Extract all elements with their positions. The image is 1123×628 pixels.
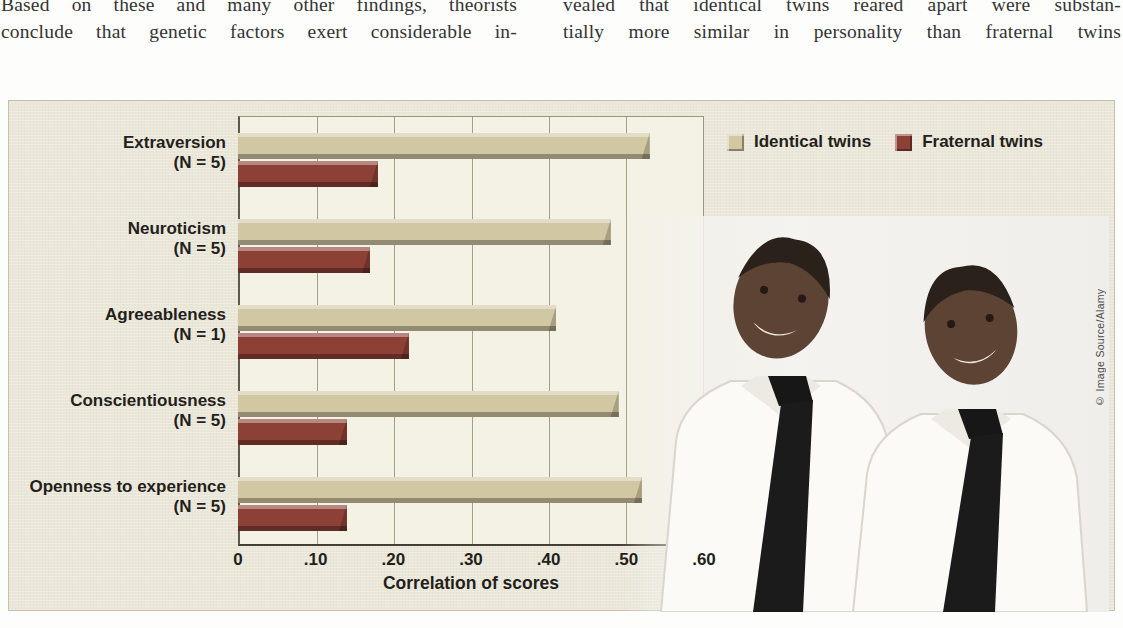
- figure-box: Extraversion (N = 5) Neuroticism (N = 5): [8, 100, 1115, 611]
- category-sample-size: (N = 5): [174, 153, 226, 173]
- chart-row: Extraversion (N = 5): [9, 116, 704, 202]
- identical-twins-bar: [238, 133, 650, 159]
- category-name: Neuroticism: [128, 219, 226, 239]
- x-tick-label: 0: [233, 550, 242, 570]
- category-sample-size: (N = 5): [174, 411, 226, 431]
- category-name: Extraversion: [123, 133, 226, 153]
- category-sample-size: (N = 5): [174, 239, 226, 259]
- legend-item-identical: Identical twins: [727, 132, 871, 152]
- identical-twins-swatch: [727, 134, 744, 151]
- x-tick-label: .20: [382, 550, 406, 570]
- bar-rows: Extraversion (N = 5) Neuroticism (N = 5): [9, 116, 704, 546]
- category-label: Conscientiousness (N = 5): [9, 374, 226, 448]
- category-name: Conscientiousness: [70, 391, 226, 411]
- legend-label: Fraternal twins: [922, 132, 1043, 152]
- category-sample-size: (N = 5): [174, 497, 226, 517]
- category-name: Agreeableness: [105, 305, 226, 325]
- x-tick-label: .30: [459, 550, 483, 570]
- fraternal-twins-bar: [238, 161, 378, 187]
- fraternal-twins-bar: [238, 247, 370, 273]
- body-text-line: vealed that identical twins reared apart…: [563, 0, 1121, 18]
- chart-row: Openness to experience (N = 5): [9, 460, 704, 546]
- legend-item-fraternal: Fraternal twins: [895, 132, 1043, 152]
- legend-label: Identical twins: [754, 132, 871, 152]
- identical-twins-bar: [238, 391, 619, 417]
- bar-pair: [238, 391, 704, 445]
- category-label: Agreeableness (N = 1): [9, 288, 226, 362]
- fraternal-twins-bar: [238, 505, 347, 531]
- category-label: Extraversion (N = 5): [9, 116, 226, 190]
- fraternal-twins-swatch: [895, 134, 912, 151]
- identical-twins-bar: [238, 477, 642, 503]
- identical-twins-bar: [238, 219, 611, 245]
- bar-pair: [238, 219, 704, 273]
- bar-pair: [238, 477, 704, 531]
- identical-twins-bar: [238, 305, 556, 331]
- chart-row: Conscientiousness (N = 5): [9, 374, 704, 460]
- x-axis-ticks: 0.10.20.30.40.50.60: [238, 550, 704, 570]
- body-text-left-column: Based on these and many other findings, …: [1, 0, 517, 45]
- chart-row: Neuroticism (N = 5): [9, 202, 704, 288]
- category-name: Openness to experience: [29, 477, 226, 497]
- chart-row: Agreeableness (N = 1): [9, 288, 704, 374]
- category-label: Neuroticism (N = 5): [9, 202, 226, 276]
- chart-legend: Identical twins Fraternal twins: [727, 132, 1043, 152]
- x-tick-label: .40: [537, 550, 561, 570]
- x-tick-label: .60: [692, 550, 716, 570]
- fraternal-twins-bar: [238, 333, 409, 359]
- body-text-line: Based on these and many other findings, …: [1, 0, 517, 18]
- body-text-line: conclude that genetic factors exert cons…: [1, 18, 517, 45]
- bar-pair: [238, 305, 704, 359]
- category-label: Openness to experience (N = 5): [9, 460, 226, 534]
- body-text-line: tially more similar in personality than …: [563, 18, 1121, 45]
- fraternal-twins-bar: [238, 419, 347, 445]
- bar-pair: [238, 133, 704, 187]
- x-tick-label: .50: [615, 550, 639, 570]
- photo-credit: © Image Source/Alamy: [1094, 223, 1106, 473]
- category-sample-size: (N = 1): [174, 325, 226, 345]
- x-tick-label: .10: [304, 550, 328, 570]
- body-text-right-column: vealed that identical twins reared apart…: [563, 0, 1121, 45]
- x-axis-title: Correlation of scores: [238, 573, 704, 594]
